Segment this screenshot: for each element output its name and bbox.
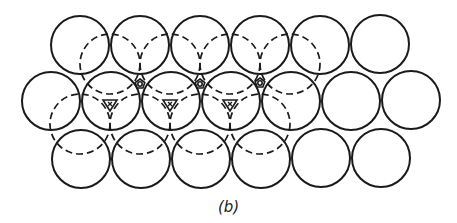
dashed-sphere-circle (80, 34, 140, 94)
figure-caption: (b) (0, 198, 457, 216)
dashed-sphere-circle (200, 34, 260, 94)
solid-sphere-circle (322, 72, 380, 130)
solid-sphere-circle (382, 71, 440, 129)
solid-sphere-circle (262, 72, 320, 130)
octahedral-hole-icon (195, 79, 205, 88)
solid-sphere-circle (232, 130, 290, 188)
solid-sphere-circle (52, 130, 110, 188)
first-layer-solid-circles (22, 15, 440, 188)
solid-sphere-circle (202, 72, 260, 130)
dashed-sphere-circle (260, 34, 320, 94)
tetrahedral-hole-icon (223, 100, 237, 111)
close-packing-diagram (0, 0, 457, 223)
octahedral-void-markers (135, 78, 265, 88)
solid-sphere-circle (112, 130, 170, 188)
octahedral-hole-icon (135, 79, 145, 88)
solid-sphere-circle (142, 72, 200, 130)
tetrahedral-void-markers (103, 100, 237, 111)
solid-sphere-circle (82, 72, 140, 130)
tetrahedral-hole-icon (103, 100, 117, 111)
solid-sphere-circle (351, 15, 409, 73)
tetrahedral-hole-icon (163, 100, 177, 111)
solid-sphere-circle (292, 129, 350, 187)
dashed-sphere-circle (140, 34, 200, 94)
solid-sphere-circle (172, 130, 230, 188)
solid-sphere-circle (352, 129, 410, 187)
solid-sphere-circle (22, 72, 80, 130)
